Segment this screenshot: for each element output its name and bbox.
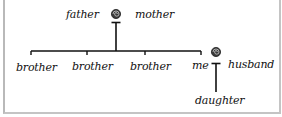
- label-mother: mother: [135, 9, 174, 21]
- spiral-knot-icon: [211, 47, 220, 56]
- label-daughter: daughter: [195, 95, 244, 107]
- label-brother-1: brother: [16, 62, 57, 74]
- siblings-bar: [31, 51, 201, 55]
- label-me: me: [192, 60, 209, 72]
- label-brother-3: brother: [130, 61, 171, 73]
- label-husband: husband: [228, 59, 274, 71]
- marriage-descent-line: [212, 64, 221, 93]
- label-brother-2: brother: [72, 61, 113, 73]
- parents-descent-line: [112, 23, 121, 52]
- label-father: father: [66, 9, 99, 21]
- spiral-knot-icon: [111, 9, 120, 18]
